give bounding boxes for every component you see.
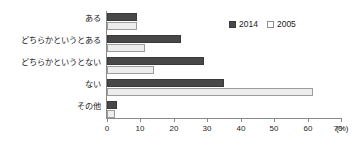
- category-label: ない: [0, 80, 101, 89]
- category-label: その他: [0, 102, 101, 111]
- bar-2005: [107, 110, 115, 118]
- x-axis-tick-label: 30: [194, 124, 220, 133]
- bar-2005: [107, 66, 154, 74]
- legend-swatch-icon: [267, 21, 274, 28]
- x-axis-tick-label: 0: [94, 124, 120, 133]
- plot-area: [107, 12, 341, 118]
- x-axis-tick-label: 50: [261, 124, 287, 133]
- bar-2014: [107, 101, 117, 109]
- x-axis-line: [106, 118, 342, 119]
- x-axis-tick: [140, 119, 141, 122]
- x-axis-tick-label: 40: [228, 124, 254, 133]
- x-axis-tick: [107, 119, 108, 122]
- bar-2005: [107, 88, 313, 96]
- x-axis-tick: [207, 119, 208, 122]
- x-axis-tick: [274, 119, 275, 122]
- bar-2014: [107, 57, 204, 65]
- chart-legend: 2014 2005: [229, 19, 296, 29]
- x-axis-tick-label: 10: [127, 124, 153, 133]
- bar-2014: [107, 13, 137, 21]
- legend-swatch-icon: [229, 21, 236, 28]
- category-label: どちらかというとない: [0, 58, 101, 67]
- legend-label: 2014: [239, 19, 258, 29]
- bar-chart: ある どちらかというとある どちらかというとない ない その他 0 10 20 …: [0, 0, 362, 149]
- x-axis-unit-label: (%): [336, 124, 348, 133]
- x-axis-tick-label: 20: [161, 124, 187, 133]
- category-label: どちらかというとある: [0, 36, 101, 45]
- x-axis-tick: [241, 119, 242, 122]
- category-label: ある: [0, 14, 101, 23]
- x-axis-tick: [308, 119, 309, 122]
- x-axis-tick: [174, 119, 175, 122]
- x-axis-tick: [341, 119, 342, 122]
- bar-2014: [107, 35, 181, 43]
- x-axis-tick-label: 60: [295, 124, 321, 133]
- category-axis-labels: ある どちらかというとある どちらかというとない ない その他: [0, 12, 103, 118]
- legend-item-2005: 2005: [267, 19, 296, 29]
- bar-2005: [107, 22, 137, 30]
- legend-item-2014: 2014: [229, 19, 258, 29]
- bar-2005: [107, 44, 145, 52]
- legend-label: 2005: [277, 19, 296, 29]
- bar-2014: [107, 79, 224, 87]
